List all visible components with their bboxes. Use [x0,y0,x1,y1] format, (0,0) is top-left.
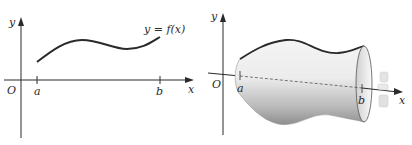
function-curve [37,37,160,62]
y-axis-label: y [210,10,218,23]
y-axis-arrow-icon [220,13,226,22]
curve-label: y = f(x) [143,23,185,36]
solid-rim [356,46,372,122]
y-axis-arrow-icon [18,17,24,26]
tick-b-label: b [358,94,365,107]
x-axis-label: x [188,83,195,96]
curve-plot: y x O a b y = f(x) [0,0,206,145]
solid-of-revolution: y x O a b [206,0,412,145]
rotation-arrow-icon [378,72,388,107]
solid-of-revolution-panel: y x O a b [206,0,412,145]
origin-label: O [7,84,16,97]
curve-plot-panel: y x O a b y = f(x) [0,0,206,145]
tick-a-label: a [34,85,41,98]
x-axis-label: x [399,94,406,107]
origin-label: O [212,78,221,91]
y-axis-label: y [8,16,16,29]
tick-a-label: a [237,82,244,95]
tick-b-label: b [156,85,163,98]
